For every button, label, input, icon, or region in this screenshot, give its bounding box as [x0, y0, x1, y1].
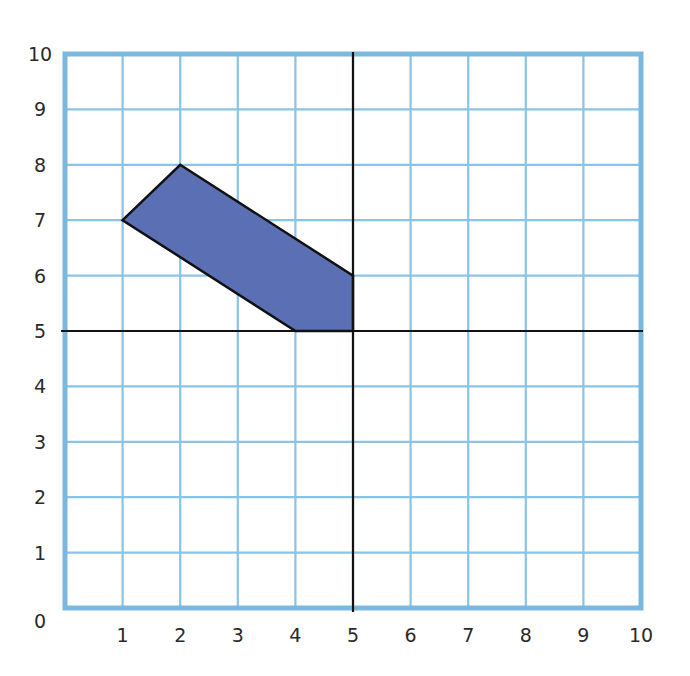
y-tick-label: 5 [34, 320, 46, 342]
x-tick-label: 9 [577, 624, 589, 646]
y-tick-label: 7 [34, 209, 46, 231]
y-tick-label: 2 [34, 486, 46, 508]
x-tick-label: 3 [232, 624, 244, 646]
x-axis-tick-labels: 12345678910 [117, 624, 654, 646]
x-tick-label: 7 [462, 624, 474, 646]
mirror-lines [61, 52, 643, 612]
y-tick-label: 6 [34, 265, 46, 287]
y-axis-tick-labels: 012345678910 [28, 43, 52, 632]
x-tick-label: 10 [629, 624, 653, 646]
y-tick-label: 1 [34, 542, 46, 564]
x-tick-label: 8 [520, 624, 532, 646]
x-tick-label: 4 [289, 624, 301, 646]
y-tick-label: 3 [34, 431, 46, 453]
x-tick-label: 6 [405, 624, 417, 646]
y-tick-label: 10 [28, 43, 52, 65]
coordinate-grid-chart: 12345678910 012345678910 [0, 0, 690, 676]
x-tick-label: 1 [117, 624, 129, 646]
y-tick-label: 4 [34, 375, 46, 397]
y-tick-label: 0 [34, 610, 46, 632]
x-tick-label: 2 [174, 624, 186, 646]
y-tick-label: 9 [34, 98, 46, 120]
x-tick-label: 5 [347, 624, 359, 646]
y-tick-label: 8 [34, 154, 46, 176]
